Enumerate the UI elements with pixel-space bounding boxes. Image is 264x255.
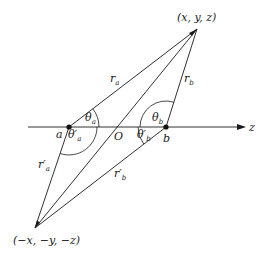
point-b xyxy=(163,124,168,129)
label-r-a-prime: r′a xyxy=(38,158,50,173)
label-O: O xyxy=(114,130,123,143)
arrowhead-P-prime xyxy=(35,220,40,228)
label-r-b-prime: r′b xyxy=(114,167,127,182)
segment-r-b xyxy=(166,29,197,127)
label-P: (x, y, z) xyxy=(177,11,216,24)
label-theta-a-prime: θ′a xyxy=(68,128,81,143)
label-theta-a: θa xyxy=(85,111,96,126)
diagram: z (x, y, z) (−x, −y, −z) a b O ra rb r′a… xyxy=(0,0,264,255)
label-theta-b: θb xyxy=(152,111,164,126)
label-r-a: ra xyxy=(110,72,119,87)
label-r-b: rb xyxy=(184,72,194,87)
z-axis-label: z xyxy=(248,121,255,134)
label-P-prime: (−x, −y, −z) xyxy=(13,234,80,247)
label-b: b xyxy=(163,132,170,145)
label-theta-b-prime: θ′b xyxy=(137,128,151,143)
label-a: a xyxy=(56,128,63,141)
segment-r-a-prime xyxy=(35,127,69,228)
z-axis-arrowhead xyxy=(237,124,246,130)
